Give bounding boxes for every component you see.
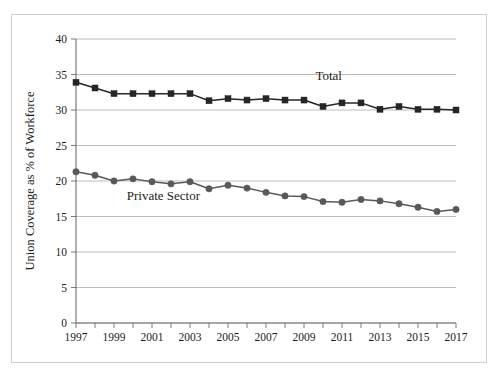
series-annotation: Total [315, 68, 342, 83]
data-point [415, 106, 421, 112]
data-point [73, 169, 79, 175]
data-point [339, 199, 345, 205]
y-tick-label: 25 [56, 140, 68, 152]
y-tick-label: 10 [56, 246, 68, 258]
x-tick-label: 2001 [141, 331, 164, 343]
x-tick-label: 2005 [217, 331, 240, 343]
data-point [206, 186, 212, 192]
data-point [434, 208, 440, 214]
data-point [282, 193, 288, 199]
data-point [187, 179, 193, 185]
x-tick-label: 2011 [331, 331, 354, 343]
x-tick-label: 2015 [407, 331, 430, 343]
x-tick-label: 2003 [179, 331, 202, 343]
data-point [358, 196, 364, 202]
data-point [92, 85, 98, 91]
data-point [187, 91, 193, 97]
data-point [339, 100, 345, 106]
data-point [111, 91, 117, 97]
data-point [434, 106, 440, 112]
line-chart: 0510152025303540199719992001200320052007… [12, 15, 486, 362]
x-tick-label: 2017 [445, 331, 468, 343]
data-point [263, 96, 269, 102]
y-tick-label: 35 [56, 69, 68, 81]
x-tick-label: 2009 [293, 331, 316, 343]
y-axis-title: Union Coverage as % of Workforce [23, 91, 37, 270]
x-tick-label: 2013 [369, 331, 392, 343]
y-tick-label: 15 [56, 211, 68, 223]
data-point [168, 181, 174, 187]
data-point [377, 198, 383, 204]
data-point [282, 97, 288, 103]
y-tick-label: 40 [56, 33, 68, 45]
data-point [358, 100, 364, 106]
data-point [168, 91, 174, 97]
data-point [130, 91, 136, 97]
data-point [206, 98, 212, 104]
data-point [244, 97, 250, 103]
data-point [225, 182, 231, 188]
data-point [301, 97, 307, 103]
series-annotation: Private Sector [127, 188, 201, 203]
y-tick-label: 0 [61, 317, 67, 329]
data-point [415, 204, 421, 210]
data-point [130, 176, 136, 182]
data-point [225, 96, 231, 102]
data-point [73, 79, 79, 85]
data-point [301, 193, 307, 199]
data-point [149, 91, 155, 97]
data-point [149, 179, 155, 185]
data-point [453, 206, 459, 212]
data-point [244, 185, 250, 191]
y-tick-label: 30 [56, 104, 68, 116]
y-tick-label: 5 [61, 282, 67, 294]
data-point [453, 107, 459, 113]
data-point [92, 172, 98, 178]
data-point [377, 106, 383, 112]
data-point [320, 103, 326, 109]
x-tick-label: 1997 [65, 331, 88, 343]
data-point [320, 198, 326, 204]
y-tick-label: 20 [56, 175, 68, 187]
data-point [396, 201, 402, 207]
x-tick-label: 1999 [103, 331, 126, 343]
chart-figure: 0510152025303540199719992001200320052007… [0, 0, 500, 375]
x-tick-label: 2007 [255, 331, 278, 343]
data-point [263, 189, 269, 195]
data-point [111, 178, 117, 184]
data-point [396, 103, 402, 109]
chart-frame: 0510152025303540199719992001200320052007… [11, 14, 487, 363]
